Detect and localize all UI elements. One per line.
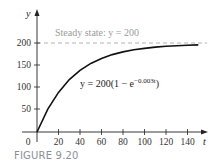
y-axis-label: y	[25, 8, 31, 19]
steady-state-label: Steady state: y = 200	[55, 27, 139, 38]
y-tick-50: 50	[22, 104, 32, 114]
x-tick-100: 100	[137, 137, 152, 147]
chart: y t 50 100 150 200 0 20 40 60 80 100 120…	[0, 0, 219, 168]
x-tick-0: 0	[26, 137, 31, 147]
y-tick-100: 100	[17, 82, 32, 92]
y-tick-150: 150	[17, 60, 32, 70]
x-axis-arrow-icon	[201, 130, 208, 135]
x-tick-40: 40	[75, 137, 85, 147]
x-tick-80: 80	[118, 137, 128, 147]
equation-label: y = 200(1 − e−0.003t)	[80, 77, 159, 90]
x-tick-60: 60	[97, 137, 107, 147]
y-tick-200: 200	[17, 38, 32, 48]
x-tick-140: 140	[180, 137, 195, 147]
y-axis-arrow-icon	[35, 9, 40, 16]
x-tick-120: 120	[159, 137, 174, 147]
figure-caption: FIGURE 9.20	[14, 150, 79, 161]
x-axis-label: t	[203, 136, 206, 147]
x-tick-20: 20	[54, 137, 64, 147]
